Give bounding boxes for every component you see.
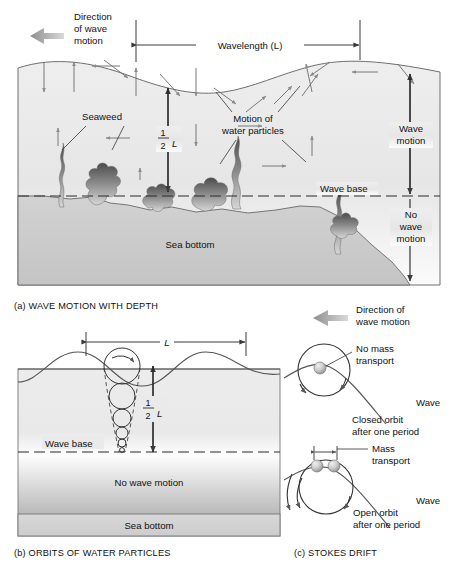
direction-label-c-line2: wave motion — [355, 316, 410, 327]
wavelength-label: Wavelength (L) — [218, 40, 283, 51]
mass-label-line2: transport — [372, 455, 410, 466]
open-orbit-arrow-outer — [287, 474, 292, 510]
no-wave-motion-label-b: No wave motion — [115, 477, 184, 488]
direction-label-line1: Direction — [74, 11, 112, 22]
panel-c-caption: (c) STOKES DRIFT — [294, 548, 377, 558]
wave-base-label-a: Wave base — [320, 183, 368, 194]
direction-arrow-c — [313, 310, 348, 326]
panel-c: Direction of wave motion No mass transpo… — [284, 304, 440, 558]
half-l-numerator: 1 — [160, 128, 165, 138]
panel-b-caption: (b) ORBITS OF WATER PARTICLES — [14, 548, 171, 558]
panel-a-caption: (a) WAVE MOTION WITH DEPTH — [14, 301, 158, 311]
open-orbit-label-line1: Open orbit — [353, 507, 398, 518]
wave-motion-label-line2: motion — [397, 135, 426, 146]
half-l-symbol: L — [172, 138, 177, 149]
open-orbit-arrow-right — [344, 496, 350, 509]
panel-b-half-l-num: 1 — [145, 398, 150, 408]
wave-base-label-b: Wave base — [45, 438, 93, 449]
particle-sphere-start — [311, 460, 323, 472]
wave-motion-figure: Direction of wave motion Wavelength (L) … — [0, 0, 461, 572]
orbit-direction-arrow — [112, 356, 134, 362]
motion-label-line1: Motion of — [233, 113, 273, 124]
figure-root: Direction of wave motion Wavelength (L) … — [0, 0, 461, 572]
closed-orbit-label-line1: Closed orbit — [352, 414, 404, 425]
direction-arrow-a — [30, 28, 64, 44]
half-wavelength-label: 1 2 L — [156, 126, 182, 152]
mass-label-line1: Mass — [372, 443, 395, 454]
panel-a: Direction of wave motion Wavelength (L) … — [14, 11, 440, 311]
no-wave-label-line2: wave — [399, 221, 422, 232]
wave-motion-label-line1: Wave — [399, 123, 423, 134]
seaweed-label: Seaweed — [82, 111, 122, 122]
no-mass-label-line1: No mass — [356, 343, 394, 354]
no-wave-label-line3: motion — [397, 233, 426, 244]
closed-orbit-label-line2: after one period — [352, 426, 419, 437]
direction-label-line3: motion — [74, 35, 103, 46]
particle-sphere-end — [328, 460, 340, 472]
direction-label-c-line1: Direction of — [356, 304, 405, 315]
half-l-denominator: 2 — [160, 141, 165, 151]
particle-sphere-closed — [314, 362, 326, 374]
open-orbit-circle — [299, 460, 353, 514]
direction-label-line2: of wave — [74, 23, 107, 34]
panel-b-half-l-den: 2 — [145, 411, 150, 421]
panel-b-wavelength-label: L — [164, 337, 169, 348]
wave-label-bottom: Wave — [416, 495, 440, 506]
wave-label-top: Wave — [416, 397, 440, 408]
no-mass-label-line2: transport — [356, 355, 394, 366]
sea-bottom-label-b: Sea bottom — [124, 520, 173, 531]
open-orbit-label-line2: after one period — [353, 519, 420, 530]
sea-bottom-label-a: Sea bottom — [165, 239, 214, 250]
no-wave-label-line1: No — [405, 209, 417, 220]
panel-b-half-l-sym: L — [157, 408, 162, 419]
panel-b-half-l-label: 1 2 L — [141, 396, 167, 422]
panel-b: L 1 2 L Wave base No wave motion — [14, 332, 280, 558]
motion-label-line2: water particles — [221, 125, 284, 136]
